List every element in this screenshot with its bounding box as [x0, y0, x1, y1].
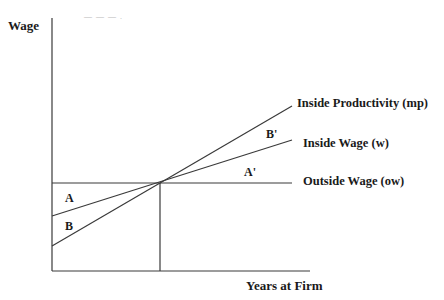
region-b-prime-label: B': [266, 127, 277, 142]
top-fragment: — — — .: [84, 12, 123, 21]
outside-wage-label: Outside Wage (ow): [303, 174, 404, 189]
region-a-label: A: [65, 191, 74, 206]
inside-productivity-line: [52, 106, 292, 246]
region-a-prime-label: A': [244, 165, 256, 180]
inside-wage-label: Inside Wage (w): [303, 136, 389, 151]
x-axis-label: Years at Firm: [246, 278, 323, 294]
y-axis-label: Wage: [8, 18, 39, 34]
inside-wage-line: [52, 140, 292, 216]
region-b-label: B: [65, 219, 73, 234]
inside-productivity-label: Inside Productivity (mp): [297, 96, 428, 111]
